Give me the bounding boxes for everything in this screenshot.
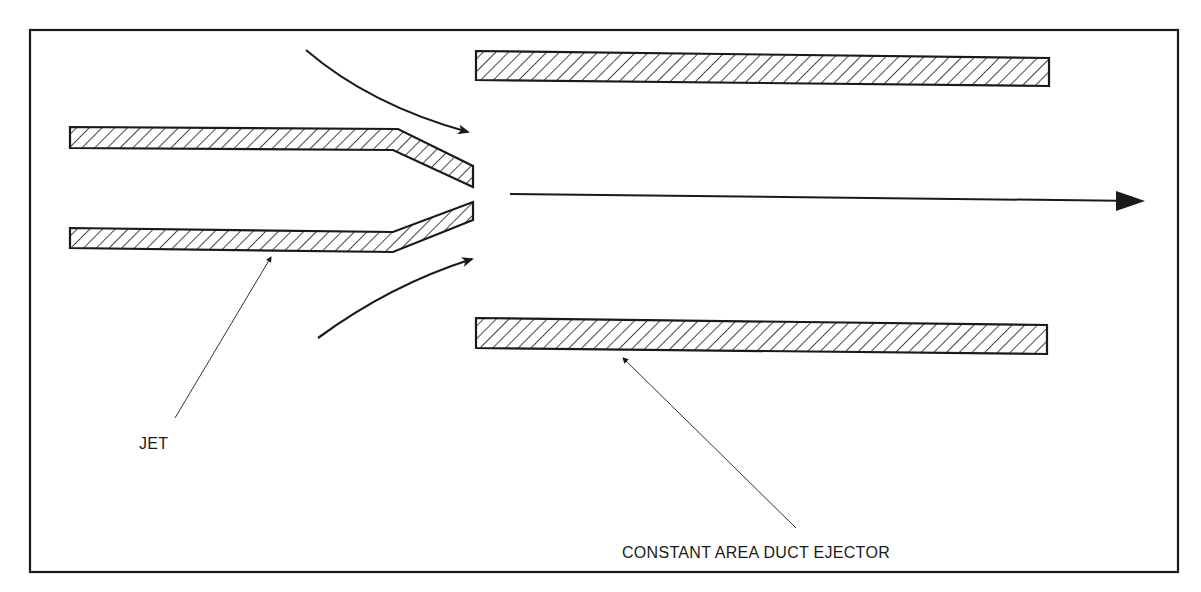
- diagram-frame: [30, 30, 1178, 572]
- main-flow-arrowhead-icon: [1116, 191, 1145, 211]
- duct-label: CONSTANT AREA DUCT EJECTOR: [622, 544, 890, 562]
- main-flow-arrow: [510, 194, 1140, 201]
- duct-lower-wall: [476, 318, 1047, 354]
- entrained-flow-upper-arrow: [306, 50, 468, 132]
- duct-upper-wall: [476, 51, 1049, 86]
- duct-leader-line: [623, 358, 796, 528]
- jet-nozzle-lower-wall: [70, 202, 473, 252]
- entrained-flow-lower-arrow: [318, 259, 472, 338]
- ejector-diagram: [0, 0, 1201, 592]
- jet-label: JET: [139, 435, 168, 453]
- jet-leader-line: [175, 257, 271, 418]
- jet-nozzle-upper-wall: [70, 127, 473, 187]
